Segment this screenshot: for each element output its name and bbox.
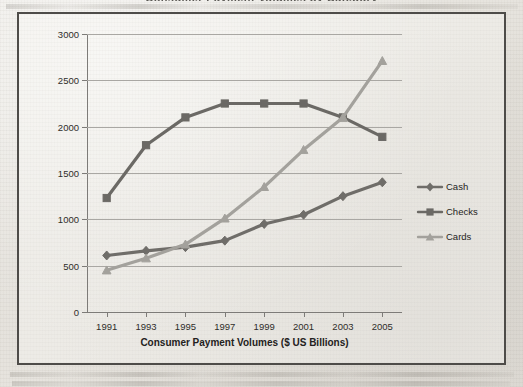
series-layer xyxy=(87,34,402,312)
data-point-marker xyxy=(142,142,149,149)
x-axis-tick xyxy=(304,312,305,317)
data-point-marker xyxy=(221,100,228,107)
x-axis-tick-label: 2001 xyxy=(293,321,314,332)
y-axis-tick-label: 0 xyxy=(74,307,79,318)
data-point-marker xyxy=(103,251,111,260)
data-point-marker xyxy=(379,133,386,140)
ghost-text-line xyxy=(6,4,518,9)
x-axis-tick xyxy=(107,312,108,317)
x-axis-tick xyxy=(225,312,226,317)
chart-frame: 050010001500200025003000 199119931995199… xyxy=(17,12,506,365)
data-point-marker xyxy=(378,57,387,65)
y-axis-tick-label: 2500 xyxy=(58,75,79,86)
x-axis-tick-label: 2003 xyxy=(332,321,353,332)
data-point-marker xyxy=(260,219,268,228)
x-axis-tick xyxy=(343,312,344,317)
y-axis-tick-label: 1500 xyxy=(58,168,79,179)
series-line xyxy=(107,61,383,270)
x-axis-tick xyxy=(146,312,147,317)
x-axis-tick-label: 1999 xyxy=(254,321,275,332)
y-axis-tick xyxy=(82,312,87,313)
x-axis-tick xyxy=(185,312,186,317)
data-point-marker xyxy=(339,192,347,201)
x-axis-title: Consumer Payment Volumes ($ US Billions) xyxy=(87,337,402,348)
data-point-marker xyxy=(103,194,110,201)
triangle-marker-icon xyxy=(417,230,443,244)
series-cards xyxy=(102,57,386,274)
plot-area: 050010001500200025003000 199119931995199… xyxy=(87,34,402,312)
data-point-marker xyxy=(378,178,386,187)
legend-item-checks[interactable]: Checks xyxy=(417,199,509,224)
ghost-text-line xyxy=(12,381,510,386)
gridline xyxy=(87,312,402,313)
x-axis-tick xyxy=(264,312,265,317)
legend-item-label: Cash xyxy=(446,181,468,192)
x-axis-tick-label: 1993 xyxy=(135,321,156,332)
x-axis-tick xyxy=(382,312,383,317)
chart-title-clipped: Consumer Payment Volumes by Category xyxy=(0,0,523,1)
square-marker-icon xyxy=(417,205,443,219)
y-axis-tick-label: 1000 xyxy=(58,214,79,225)
legend-item-label: Checks xyxy=(446,206,478,217)
data-point-marker xyxy=(261,100,268,107)
data-point-marker xyxy=(300,100,307,107)
y-axis-tick-label: 2000 xyxy=(58,121,79,132)
y-axis-tick-label: 3000 xyxy=(58,29,79,40)
x-axis-tick-label: 2005 xyxy=(372,321,393,332)
chart-legend: CashChecksCards xyxy=(417,174,509,249)
x-axis-tick-label: 1997 xyxy=(214,321,235,332)
data-point-marker xyxy=(221,236,229,245)
diamond-marker-icon xyxy=(417,180,443,194)
series-cash xyxy=(103,178,387,260)
data-point-marker xyxy=(300,210,308,219)
y-axis-tick-label: 500 xyxy=(63,260,79,271)
legend-item-label: Cards xyxy=(446,231,471,242)
legend-item-cards[interactable]: Cards xyxy=(417,224,509,249)
legend-item-cash[interactable]: Cash xyxy=(417,174,509,199)
data-point-marker xyxy=(182,114,189,121)
x-axis-tick-label: 1995 xyxy=(175,321,196,332)
x-axis-tick-label: 1991 xyxy=(96,321,117,332)
ghost-text-line xyxy=(10,372,514,377)
